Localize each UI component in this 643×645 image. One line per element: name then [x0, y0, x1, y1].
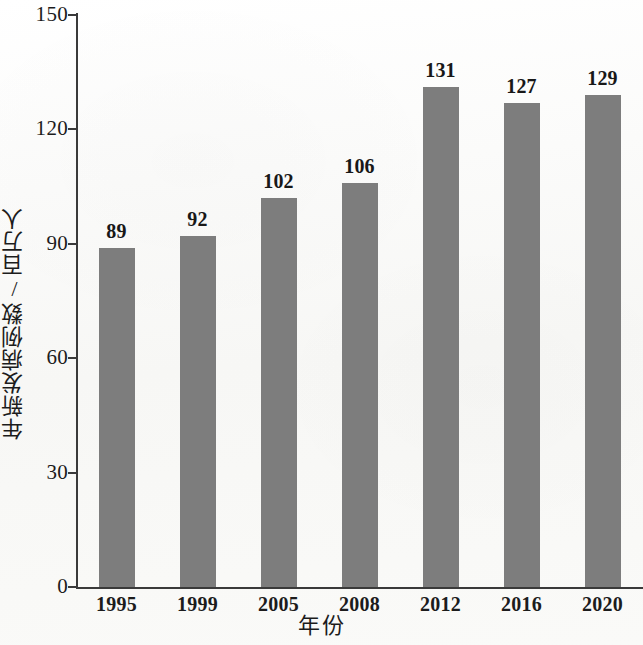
- x-axis-line: [76, 587, 643, 589]
- y-axis-tick-label: 150: [10, 4, 68, 25]
- bar-value-label: 92: [158, 209, 238, 229]
- x-axis-tick-label: 1995: [77, 594, 157, 614]
- bar: [585, 95, 621, 587]
- bar-value-label: 89: [77, 221, 157, 241]
- x-axis-tick-label: 1999: [158, 594, 238, 614]
- y-axis-tick-label: 0: [10, 576, 68, 597]
- bar-value-label: 129: [563, 68, 643, 88]
- bar-value-label: 102: [239, 171, 319, 191]
- y-axis-tick-label: 30: [10, 462, 68, 483]
- x-axis-tick-label: 2016: [482, 594, 562, 614]
- bar: [261, 198, 297, 587]
- bar-value-label: 106: [320, 156, 400, 176]
- x-axis-tick-label: 2008: [320, 594, 400, 614]
- y-axis-title: 年新发病例数/百万人: [3, 206, 31, 439]
- bar-value-label: 131: [401, 60, 481, 80]
- plot-area: [76, 15, 643, 587]
- bar-value-label: 127: [482, 76, 562, 96]
- bar-chart: 0306090120150 8992102106131127129 199519…: [0, 0, 643, 645]
- bar: [342, 183, 378, 587]
- bar: [99, 248, 135, 587]
- bar: [180, 236, 216, 587]
- bar: [423, 87, 459, 587]
- x-axis-title: 年份: [0, 615, 643, 637]
- bar: [504, 103, 540, 587]
- x-axis-tick-label: 2005: [239, 594, 319, 614]
- x-axis-tick-label: 2012: [401, 594, 481, 614]
- x-axis-tick-label: 2020: [563, 594, 643, 614]
- y-axis-title-text: 年新发病例数/百万人: [0, 206, 31, 439]
- y-axis-tick-label: 120: [10, 118, 68, 139]
